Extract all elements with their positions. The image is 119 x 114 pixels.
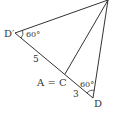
label-angle-d-prime: 60° <box>26 30 40 39</box>
angle-arc-d-prime <box>21 30 23 38</box>
geometry-diagram: D′ 60° 5 A = C 60° 3 D <box>0 0 119 114</box>
segment-top-dprime <box>15 0 108 33</box>
label-angle-d: 60° <box>80 80 94 89</box>
label-length-3: 3 <box>73 89 79 99</box>
label-a-equals-c: A = C <box>36 77 67 88</box>
label-length-5: 5 <box>33 54 39 64</box>
segment-top-c <box>65 0 108 74</box>
label-d-prime: D′ <box>4 28 15 39</box>
label-d: D <box>94 98 102 109</box>
segment-top-d <box>93 0 108 98</box>
angle-arc-d <box>87 90 94 93</box>
